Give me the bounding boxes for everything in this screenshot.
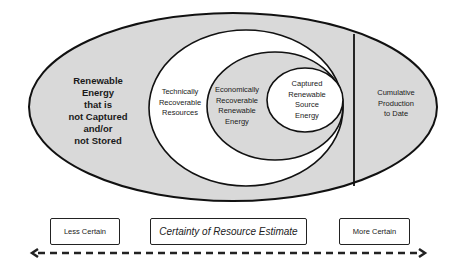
label-captured-energy: Captured Renewable Source Energy xyxy=(288,79,326,121)
label-cumulative-production: Cumulative Production to Date xyxy=(377,88,415,120)
certainty-title-label: Certainty of Resource Estimate xyxy=(159,226,297,237)
arrow-right-head-icon xyxy=(419,249,425,257)
more-certain-box: More Certain xyxy=(339,218,410,245)
label-technically-recoverable: Technically Recoverable Resources xyxy=(159,87,201,119)
less-certain-box: Less Certain xyxy=(50,218,120,245)
less-certain-label: Less Certain xyxy=(64,227,106,236)
label-economically-recoverable: Economically Recoverable Renewable Energ… xyxy=(215,85,259,127)
more-certain-label: More Certain xyxy=(353,227,396,236)
label-not-captured: Renewable Energy that is not Captured an… xyxy=(68,75,127,147)
arrow-left-head-icon xyxy=(32,249,38,257)
certainty-title-box: Certainty of Resource Estimate xyxy=(150,218,307,245)
